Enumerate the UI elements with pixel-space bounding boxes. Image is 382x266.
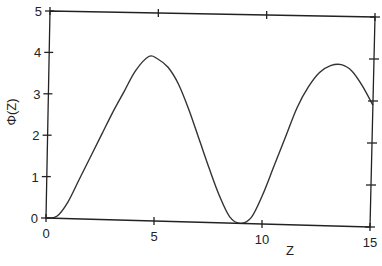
y-tick-label: 1 bbox=[32, 170, 39, 185]
y-tick-label: 3 bbox=[33, 87, 40, 102]
x-tick-label: 0 bbox=[42, 226, 49, 241]
y-tick-label: 4 bbox=[34, 45, 41, 60]
plot-frame bbox=[46, 11, 375, 227]
y-tick-label: 5 bbox=[35, 4, 42, 19]
axis-labels: 051015012345ZΦ(Z) bbox=[4, 4, 377, 258]
line-chart: 051015012345ZΦ(Z) bbox=[0, 0, 382, 266]
x-axis-label: Z bbox=[286, 243, 294, 258]
y-tick-label: 2 bbox=[32, 128, 39, 143]
axes bbox=[41, 7, 380, 231]
x-tick-label: 15 bbox=[363, 235, 377, 250]
series-line-phi bbox=[46, 56, 373, 224]
y-axis-label: Φ(Z) bbox=[4, 99, 19, 126]
x-tick-label: 10 bbox=[255, 232, 269, 247]
x-tick-label: 5 bbox=[150, 229, 157, 244]
plot-area bbox=[46, 56, 373, 224]
y-tick-label: 0 bbox=[31, 211, 38, 226]
